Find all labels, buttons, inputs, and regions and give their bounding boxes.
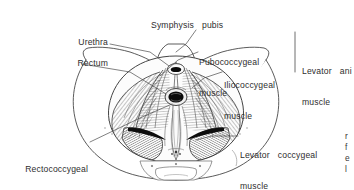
urethral-opening (168, 64, 185, 75)
label-rectococcygeal-line1: Rectococcygeal (8, 164, 88, 174)
label-levator-coccygeal: Levator coccygeal muscle (240, 130, 317, 190)
label-levator-coccygeal-line1: Levator coccygeal (240, 150, 317, 160)
cropped-edge-text-fragment: r f e l (345, 131, 350, 175)
label-iliococcygeal: Iliococcygeal muscle (224, 60, 275, 131)
label-levator-ani-line1: Levator ani (302, 66, 352, 76)
label-urethra: Urethra (62, 37, 108, 47)
label-iliococcygeal-line1: Iliococcygeal (224, 80, 275, 90)
coccyx (140, 161, 212, 180)
label-levator-ani-line2: muscle (302, 97, 352, 107)
label-levator-coccygeal-line2: muscle (240, 181, 317, 190)
label-levator-ani: Levator ani muscle (302, 46, 352, 117)
label-rectum: Rectum (40, 58, 108, 68)
label-symphysis-pubis: Symphysis pubis (151, 20, 223, 30)
label-rectococcygeal: Rectococcygeal muscle (8, 144, 88, 190)
label-iliococcygeal-line2: muscle (224, 111, 275, 121)
